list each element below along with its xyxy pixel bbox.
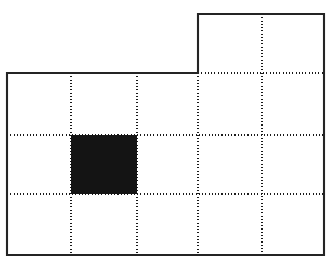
filled-cells [71,135,137,194]
grid-figure-canvas [0,0,332,264]
grid-horizontal-lines [7,73,324,194]
region-outline [7,14,324,255]
filled-cell [71,135,137,194]
grid-figure-svg [0,0,332,264]
